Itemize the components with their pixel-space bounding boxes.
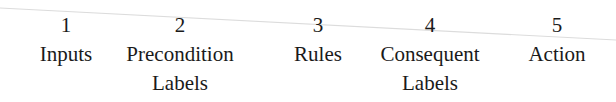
- column-number: 1: [61, 14, 72, 36]
- column-label-line: Rules: [294, 40, 342, 69]
- column-label: Precondition Labels: [126, 40, 233, 98]
- column-number: 4: [425, 14, 436, 36]
- column-label-line: Precondition: [126, 40, 233, 69]
- column-label: Rules: [294, 40, 342, 69]
- column-label-line: Action: [528, 40, 585, 69]
- column-number: 3: [313, 14, 324, 36]
- column-label-line: Labels: [380, 69, 479, 98]
- column-label-line: Labels: [126, 69, 233, 98]
- column-number: 5: [552, 14, 563, 36]
- column-label: Action: [528, 40, 585, 69]
- column-label: Inputs: [40, 40, 93, 69]
- column-label-line: Inputs: [40, 40, 93, 69]
- column-label-line: Consequent: [380, 40, 479, 69]
- column-number: 2: [175, 14, 186, 36]
- column-label: Consequent Labels: [380, 40, 479, 98]
